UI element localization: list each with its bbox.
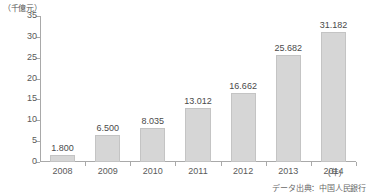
source-note: データ出典：中国人民銀行 (272, 182, 366, 193)
bar-slot: 25.6822013 (276, 16, 301, 162)
x-category-label: 2009 (98, 166, 118, 176)
bar (140, 128, 165, 162)
x-category-label: 2011 (188, 166, 207, 176)
x-tick-mark (266, 162, 267, 166)
bar (185, 108, 210, 162)
bar-value-label: 6.500 (96, 123, 119, 133)
bar-value-label: 16.662 (229, 81, 257, 91)
y-axis-line (40, 16, 41, 162)
bar-value-label: 25.682 (275, 43, 303, 53)
bar-slot: 31.1822014 (321, 16, 346, 162)
x-axis-unit-label: (年) (328, 166, 341, 177)
y-tick-label: 15 (27, 93, 37, 103)
x-category-label: 2013 (278, 166, 298, 176)
y-tick-label: 5 (32, 135, 37, 145)
bar-slot: 16.6622012 (231, 16, 256, 162)
x-category-label: 2008 (53, 166, 73, 176)
y-tick-label: 20 (27, 73, 37, 83)
y-tick-label: 25 (27, 52, 37, 62)
x-tick-mark (85, 162, 86, 166)
x-tick-mark (221, 162, 222, 166)
x-tick-mark (356, 162, 357, 166)
bar (50, 155, 75, 163)
bar-value-label: 31.182 (320, 20, 348, 30)
y-tick-label: 35 (27, 10, 37, 20)
bar (95, 135, 120, 162)
bar (321, 32, 346, 162)
bar-slot: 13.0122011 (185, 16, 210, 162)
bar-value-label: 8.035 (142, 116, 165, 126)
y-tick-label: 30 (27, 31, 37, 41)
x-tick-mark (311, 162, 312, 166)
x-category-label: 2012 (233, 166, 253, 176)
y-tick-label: 0 (32, 156, 37, 166)
x-category-label: 2010 (143, 166, 163, 176)
bar-value-label: 1.800 (51, 143, 74, 153)
bar-chart: （千億元） 05101520253035 1.80020086.50020098… (0, 0, 370, 195)
x-tick-mark (130, 162, 131, 166)
x-tick-mark (175, 162, 176, 166)
bar (276, 55, 301, 162)
bar-slot: 1.8002008 (50, 16, 75, 162)
bar-slot: 8.0352010 (140, 16, 165, 162)
y-tick-label: 10 (27, 114, 37, 124)
plot-area: 05101520253035 1.80020086.50020098.03520… (40, 16, 356, 162)
bar-value-label: 13.012 (184, 96, 212, 106)
bar (231, 93, 256, 163)
bar-slot: 6.5002009 (95, 16, 120, 162)
